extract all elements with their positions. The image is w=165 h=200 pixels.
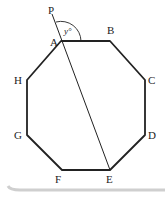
octagon-diagram: y° ABCDEFGHP [0, 0, 165, 200]
vertex-label-e: E [106, 173, 113, 185]
vertex-label-h: H [14, 74, 22, 86]
vertex-label-c: C [148, 74, 155, 86]
vertex-label-f: F [55, 173, 61, 185]
vertex-label-b: B [107, 24, 114, 36]
vertex-label-a: A [50, 36, 58, 48]
page-shadow [8, 186, 165, 190]
vertex-label-d: D [148, 129, 156, 141]
vertex-label-g: G [14, 129, 22, 141]
angle-label: y° [63, 26, 72, 36]
vertex-label-p: P [48, 4, 54, 16]
